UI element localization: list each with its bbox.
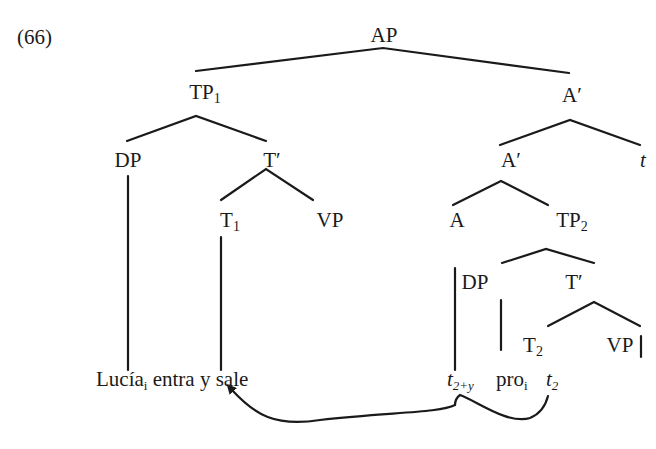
node-vp1: VP — [317, 210, 344, 231]
node-abar2: A — [501, 150, 521, 171]
terminal-trace-2y: t2+y — [447, 369, 474, 390]
branch-tp2 — [502, 249, 594, 263]
node-t1: T1 — [220, 210, 240, 231]
node-vp2: VP — [607, 335, 634, 356]
node-a: A — [449, 210, 464, 231]
terminal-lucia-entra-y-sale: Lucíai entra y sale — [96, 369, 248, 390]
node-t2: T2 — [523, 335, 543, 356]
node-trace-t: t — [640, 150, 646, 171]
node-dp2: DP — [462, 272, 489, 293]
node-tbar2: T — [565, 272, 582, 293]
node-abar1: A — [562, 85, 582, 106]
movement-arrow — [232, 390, 548, 422]
example-number: (66) — [17, 27, 52, 48]
terminal-trace-2: t2 — [546, 369, 558, 390]
branch-tp1 — [127, 116, 266, 141]
node-tp2: TP2 — [556, 210, 588, 231]
node-tp1: TP1 — [189, 82, 221, 103]
branch-abar1 — [500, 120, 640, 145]
node-tbar1: T — [263, 150, 280, 171]
terminal-pro: proi — [496, 369, 528, 390]
branch-tbar1 — [221, 169, 313, 200]
node-dp1: DP — [115, 150, 142, 171]
node-ap: AP — [371, 25, 398, 46]
branch-tbar2 — [548, 302, 640, 326]
branch-abar2 — [453, 181, 548, 205]
branch-ap — [196, 48, 569, 73]
